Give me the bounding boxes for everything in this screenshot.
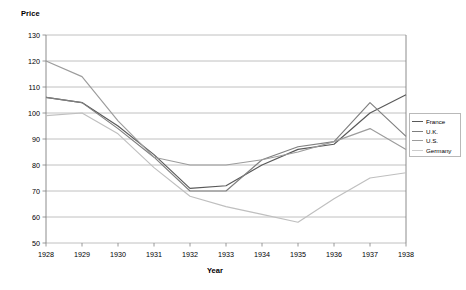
x-tick-label: 1934: [242, 250, 282, 259]
y-tick-label: 100: [16, 109, 40, 118]
legend-color-swatch: [412, 131, 423, 132]
y-tick-label: 90: [16, 135, 40, 144]
x-tick-label: 1936: [314, 250, 354, 259]
y-tick-label: 50: [16, 239, 40, 248]
series-line-uk: [46, 97, 406, 191]
x-tick-label: 1938: [386, 250, 426, 259]
x-tick-label: 1928: [26, 250, 66, 259]
legend-color-swatch: [412, 150, 423, 151]
x-tick-label: 1932: [170, 250, 210, 259]
x-tick-label: 1933: [206, 250, 246, 259]
y-tick-label: 60: [16, 213, 40, 222]
y-axis-title: Price: [21, 9, 40, 18]
series-line-france: [46, 95, 406, 189]
y-tick-label: 80: [16, 161, 40, 170]
x-axis-ticks: [43, 35, 407, 247]
legend-label: France: [426, 118, 445, 125]
gridlines: [46, 35, 406, 243]
legend-label: U.S.: [426, 137, 438, 144]
legend-item: U.S.: [412, 136, 458, 146]
series-lines: [46, 61, 406, 222]
price-line-chart: Price Year 1301201101009080706050 192819…: [0, 0, 466, 290]
legend-item: Germany: [412, 146, 458, 156]
chart-plot-area: [0, 0, 466, 290]
legend-label: Germany: [426, 147, 451, 154]
series-line-germany: [46, 113, 406, 222]
x-tick-label: 1937: [350, 250, 390, 259]
legend-item: U.K.: [412, 127, 458, 137]
x-axis-title: Year: [0, 266, 430, 275]
legend-item: France: [412, 117, 458, 127]
chart-legend: FranceU.K.U.S.Germany: [409, 113, 461, 157]
legend-color-swatch: [412, 140, 423, 141]
y-tick-label: 120: [16, 57, 40, 66]
y-tick-label: 130: [16, 31, 40, 40]
y-tick-label: 110: [16, 83, 40, 92]
x-tick-label: 1930: [98, 250, 138, 259]
x-tick-label: 1931: [134, 250, 174, 259]
x-tick-label: 1929: [62, 250, 102, 259]
x-tick-label: 1935: [278, 250, 318, 259]
legend-color-swatch: [412, 121, 423, 122]
legend-label: U.K.: [426, 128, 438, 135]
y-tick-label: 70: [16, 187, 40, 196]
